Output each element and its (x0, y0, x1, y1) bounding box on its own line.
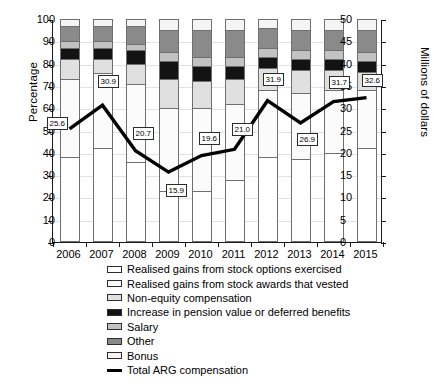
x-tick (86, 242, 87, 247)
legend-item[interactable]: Salary (107, 320, 437, 334)
y-tick-label-right: 45 (340, 36, 370, 47)
y-tick-label-left: 100 (21, 14, 55, 25)
y-tick-label-left: 30 (21, 170, 55, 181)
legend-item[interactable]: Realised gains from stock options exerci… (107, 262, 437, 276)
legend-item[interactable]: Realised gains from stock awards that ve… (107, 276, 437, 290)
y-tick-label-left: 60 (21, 103, 55, 114)
y-tick-label-left: 80 (21, 59, 55, 70)
x-tick (119, 242, 120, 247)
legend-item[interactable]: Increase in pension value or deferred be… (107, 305, 437, 319)
legend-label: Bonus (127, 350, 158, 362)
x-tick (251, 242, 252, 247)
y-tick-label-right: 10 (340, 192, 370, 203)
y-tick-right (381, 42, 386, 43)
y-tick-label-left: 10 (21, 215, 55, 226)
y-tick-label-right: 25 (340, 126, 370, 137)
legend-swatch-icon (107, 266, 122, 273)
y-tick-right (381, 65, 386, 66)
legend-swatch-icon (107, 294, 122, 301)
legend-item[interactable]: Other (107, 334, 437, 348)
y-tick-label-left: 40 (21, 148, 55, 159)
legend-item[interactable]: Bonus (107, 348, 437, 362)
y-tick-right (381, 132, 386, 133)
data-label: 25.6 (47, 117, 69, 130)
y-tick-right (381, 221, 386, 222)
y-tick-label-right: 30 (340, 103, 370, 114)
legend-label: Other (127, 335, 155, 347)
legend-label: Realised gains from stock options exerci… (127, 263, 342, 275)
legend-swatch-icon (107, 352, 122, 359)
data-label: 31.7 (329, 76, 351, 89)
y-tick-right (381, 198, 386, 199)
x-tick (284, 242, 285, 247)
x-axis-label: 2015 (346, 248, 386, 260)
data-label: 30.9 (98, 75, 120, 88)
data-label: 26.9 (297, 133, 319, 146)
legend-label: Realised gains from stock awards that ve… (127, 278, 348, 290)
x-tick (317, 242, 318, 247)
data-label: 19.6 (199, 132, 221, 145)
y-tick-right (381, 20, 386, 21)
chart-figure: Percentage Millions of dollars 010203040… (0, 0, 440, 389)
y-tick-label-right: 20 (340, 148, 370, 159)
y-tick-label-right: 0 (340, 237, 370, 248)
y-axis-right-title: Millions of dollars (413, 12, 431, 172)
legend-swatch-icon (107, 309, 122, 316)
legend-label: Increase in pension value or deferred be… (127, 306, 350, 318)
data-label: 31.9 (263, 73, 285, 86)
x-tick (218, 242, 219, 247)
legend-swatch-icon (107, 338, 122, 345)
legend-item[interactable]: Total ARG compensation (107, 363, 437, 377)
legend-swatch-icon (107, 323, 122, 330)
legend-label: Salary (127, 321, 158, 333)
y-tick-label-left: 90 (21, 36, 55, 47)
y-tick-right (381, 109, 386, 110)
y-tick-label-right: 50 (340, 14, 370, 25)
y-tick-right (381, 154, 386, 155)
data-label: 20.7 (133, 127, 155, 140)
legend-label: Non-equity compensation (127, 292, 252, 304)
y-tick-right (381, 87, 386, 88)
x-tick (185, 242, 186, 247)
x-tick (383, 242, 384, 247)
legend: Realised gains from stock options exerci… (107, 262, 437, 377)
legend-swatch-icon (107, 280, 122, 287)
y-tick-label-right: 15 (340, 170, 370, 181)
legend-line-swatch-icon (107, 369, 122, 372)
x-tick (152, 242, 153, 247)
y-tick-label-right: 40 (340, 59, 370, 70)
y-tick-label-right: 5 (340, 215, 370, 226)
y-tick-label-left: 20 (21, 192, 55, 203)
y-tick-right (381, 176, 386, 177)
legend-label: Total ARG compensation (127, 364, 248, 376)
y-tick-label-left: 0 (21, 237, 55, 248)
y-tick-label-left: 70 (21, 81, 55, 92)
legend-item[interactable]: Non-equity compensation (107, 291, 437, 305)
data-label: 15.9 (166, 184, 188, 197)
data-label: 32.6 (362, 74, 384, 87)
data-label: 21.0 (232, 123, 254, 136)
